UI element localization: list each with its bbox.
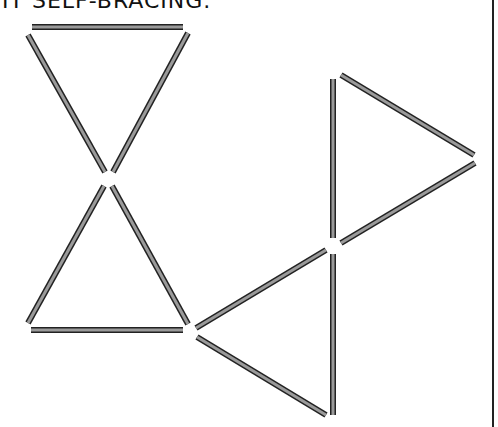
- stick: [28, 186, 104, 323]
- stick: [196, 250, 326, 328]
- stick-figure-diagram: [0, 0, 498, 427]
- stick: [197, 337, 326, 415]
- stick: [112, 186, 188, 324]
- stick: [341, 75, 474, 155]
- stick: [341, 163, 475, 243]
- stick: [113, 33, 188, 172]
- stick: [28, 35, 105, 172]
